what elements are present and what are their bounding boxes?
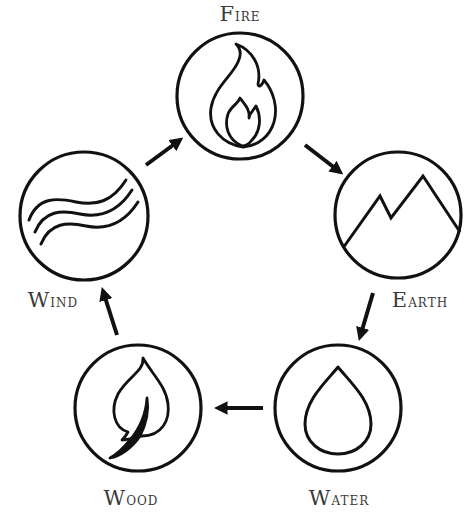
node-earth bbox=[335, 152, 461, 278]
arrow-wind-to-fire bbox=[146, 140, 180, 165]
mountain-icon bbox=[343, 176, 460, 248]
arrow-fire-to-earth bbox=[305, 145, 340, 172]
water-circle bbox=[275, 345, 401, 471]
label-fire-initial: F bbox=[219, 2, 235, 26]
label-wood-initial: W bbox=[104, 486, 127, 510]
wood-circle bbox=[75, 345, 201, 471]
wind-icon bbox=[29, 180, 138, 244]
label-wood: Wood bbox=[104, 488, 159, 509]
label-water-rest: ater bbox=[331, 489, 369, 509]
flame-icon bbox=[211, 44, 276, 147]
arrow-wood-to-wind bbox=[103, 291, 117, 335]
node-wind bbox=[20, 152, 148, 280]
node-water bbox=[275, 345, 401, 471]
node-wood bbox=[75, 345, 201, 471]
label-fire-rest: ire bbox=[235, 5, 261, 25]
label-wood-rest: ood bbox=[126, 489, 158, 509]
five-elements-cycle-diagram bbox=[0, 0, 471, 516]
droplet-icon bbox=[305, 367, 371, 454]
label-water: Water bbox=[309, 488, 369, 509]
label-wind-rest: ind bbox=[50, 291, 78, 311]
leaf-icon bbox=[110, 358, 168, 458]
label-wind: Wind bbox=[28, 290, 78, 311]
node-fire bbox=[177, 33, 303, 159]
label-water-initial: W bbox=[309, 486, 332, 510]
arrow-earth-to-water bbox=[360, 293, 373, 337]
label-earth-initial: E bbox=[392, 288, 408, 312]
cycle-arrows bbox=[103, 140, 373, 408]
label-fire: Fire bbox=[219, 4, 260, 25]
label-earth: Earth bbox=[392, 290, 448, 311]
label-wind-initial: W bbox=[28, 288, 51, 312]
label-earth-rest: arth bbox=[408, 291, 448, 311]
earth-circle bbox=[335, 152, 461, 278]
